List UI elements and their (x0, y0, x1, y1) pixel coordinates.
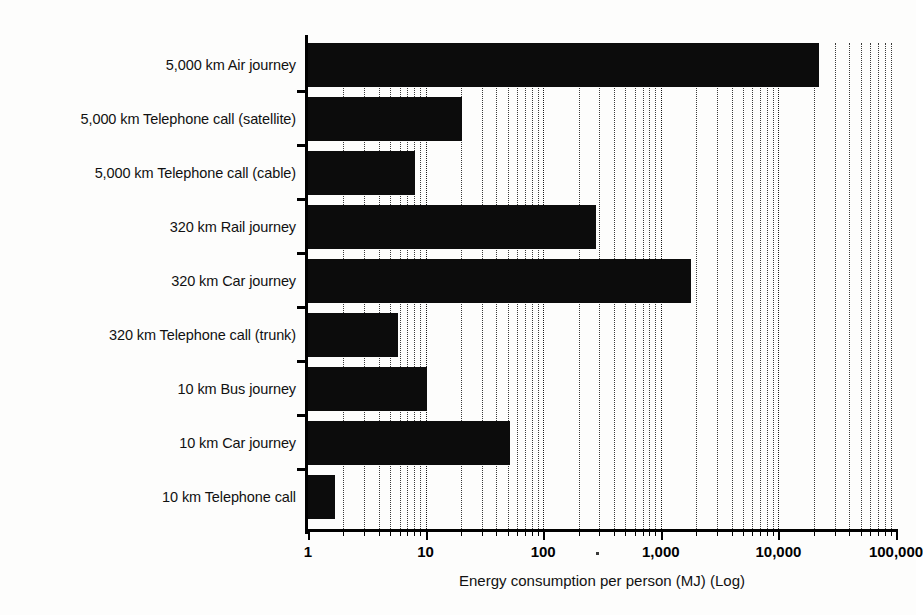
y-axis-tick (297, 468, 307, 471)
gridline-major (778, 43, 780, 529)
category-label: 320 km Telephone call (trunk) (0, 327, 296, 343)
x-axis-tick-minor (525, 529, 526, 536)
category-label: 5,000 km Air journey (0, 57, 296, 73)
bar (308, 421, 510, 465)
x-axis-tick-label: 1,000 (642, 543, 680, 560)
bar (308, 475, 335, 519)
x-axis-line (305, 529, 896, 532)
gridline-minor (835, 43, 837, 529)
x-axis-tick-minor (814, 529, 815, 536)
gridline-minor (891, 43, 893, 529)
x-axis-tick-minor (760, 529, 761, 536)
bar (308, 151, 415, 195)
y-axis-tick (297, 144, 307, 147)
x-axis-tick-minor (379, 529, 380, 536)
gridline-minor (814, 43, 816, 529)
x-axis-tick-minor (614, 529, 615, 536)
x-axis-tick-label: 10,000 (755, 543, 801, 560)
x-axis-tick-label: 100,000 (869, 543, 923, 560)
category-label: 5,000 km Telephone call (satellite) (0, 111, 296, 127)
gridline-minor (878, 43, 880, 529)
y-axis-tick (297, 414, 307, 417)
x-axis-title: Energy consumption per person (MJ) (Log) (308, 572, 896, 589)
x-axis-tick-label: 10 (417, 543, 434, 560)
x-axis-tick-minor (885, 529, 886, 536)
gridline-minor (773, 43, 775, 529)
x-axis-tick-minor (732, 529, 733, 536)
category-label: 10 km Bus journey (0, 381, 296, 397)
x-axis-tick-label: 1 (304, 543, 312, 560)
x-axis-tick-minor (625, 529, 626, 536)
gridline-minor (752, 43, 754, 529)
x-axis-tick-minor (643, 529, 644, 536)
x-axis-tick-minor (407, 529, 408, 536)
category-label: 320 km Rail journey (0, 219, 296, 235)
x-axis-tick-minor (767, 529, 768, 536)
x-axis-tick-minor (773, 529, 774, 536)
x-axis-tick-minor (400, 529, 401, 536)
gridline-minor (732, 43, 734, 529)
x-axis-tick-minor (696, 529, 697, 536)
x-axis-tick-minor (891, 529, 892, 536)
gridline-minor (885, 43, 887, 529)
x-axis-tick-minor (532, 529, 533, 536)
x-axis-tick-minor (482, 529, 483, 536)
gridline-minor (861, 43, 863, 529)
x-axis-tick-major (426, 529, 428, 540)
x-axis-tick-major (543, 529, 545, 540)
bar (308, 97, 462, 141)
x-axis-tick-minor (861, 529, 862, 536)
gridline-minor (767, 43, 769, 529)
bar (308, 313, 398, 357)
category-label: 5,000 km Telephone call (cable) (0, 165, 296, 181)
x-axis-tick-major (308, 529, 310, 540)
x-axis-tick-minor (878, 529, 879, 536)
x-axis-tick-major (661, 529, 663, 540)
category-axis-labels: 5,000 km Air journey5,000 km Telephone c… (0, 43, 296, 529)
x-axis-tick-major (778, 529, 780, 540)
x-axis-tick-minor (635, 529, 636, 536)
x-axis-tick-minor (717, 529, 718, 536)
plot-area: 1101001,00010,000100,000 (308, 43, 896, 529)
x-axis-tick-minor (870, 529, 871, 536)
x-axis-tick-minor (538, 529, 539, 536)
x-axis-tick-minor (752, 529, 753, 536)
x-axis-tick-minor (743, 529, 744, 536)
category-label: 10 km Telephone call (0, 489, 296, 505)
y-axis-tick (297, 360, 307, 363)
bar (308, 259, 691, 303)
bar (308, 205, 596, 249)
y-axis-tick (297, 90, 307, 93)
x-axis-tick-minor (496, 529, 497, 536)
x-axis-tick-minor (414, 529, 415, 536)
gridline-minor (717, 43, 719, 529)
x-axis-tick-minor (461, 529, 462, 536)
x-axis-tick-minor (364, 529, 365, 536)
x-axis-tick-minor (517, 529, 518, 536)
gridline-minor (743, 43, 745, 529)
x-axis-tick-minor (655, 529, 656, 536)
print-speck (596, 552, 599, 555)
x-axis-tick-minor (649, 529, 650, 536)
gridline-minor (760, 43, 762, 529)
x-axis-tick-minor (835, 529, 836, 536)
x-axis-tick-major (896, 529, 898, 540)
x-axis-tick-minor (508, 529, 509, 536)
gridline-minor (696, 43, 698, 529)
x-axis-tick-minor (420, 529, 421, 536)
x-axis-tick-minor (390, 529, 391, 536)
x-axis-tick-minor (849, 529, 850, 536)
bar (308, 43, 819, 87)
gridline-minor (849, 43, 851, 529)
x-axis-tick-label: 100 (531, 543, 556, 560)
y-axis-tick (297, 198, 307, 201)
category-label: 320 km Car journey (0, 273, 296, 289)
x-axis-tick-minor (579, 529, 580, 536)
x-axis-tick-minor (599, 529, 600, 536)
bar (308, 367, 427, 411)
y-axis-tick (297, 252, 307, 255)
category-label: 10 km Car journey (0, 435, 296, 451)
y-axis-tick (297, 306, 307, 309)
x-axis-tick-minor (343, 529, 344, 536)
